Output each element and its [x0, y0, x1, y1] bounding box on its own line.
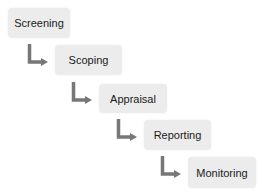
step-appraisal: Appraisal: [99, 84, 167, 113]
elbow-arrow-icon: [24, 42, 54, 68]
elbow-arrow-icon: [68, 80, 98, 106]
elbow-arrow-icon: [113, 117, 143, 143]
elbow-arrow-icon: [157, 154, 187, 180]
step-screening: Screening: [8, 8, 70, 38]
step-scoping: Scoping: [55, 45, 122, 75]
step-reporting: Reporting: [144, 120, 211, 150]
step-monitoring: Monitoring: [188, 157, 256, 188]
